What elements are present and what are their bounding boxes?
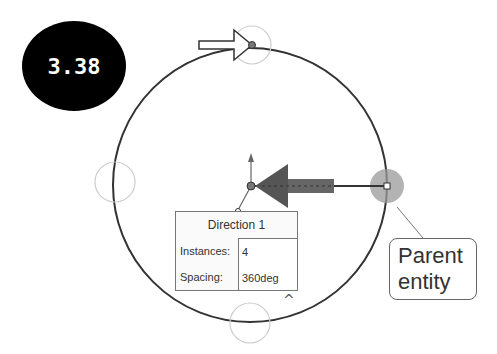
parent-entity-endpoint[interactable] <box>384 183 390 189</box>
figure-number-badge: 3.38 <box>22 21 126 111</box>
direction-dialog-title: Direction 1 <box>176 212 297 238</box>
parent-entity-callout: Parent entity <box>389 238 477 300</box>
direction-dialog: Direction 1 Instances: Spacing: 4 360deg <box>175 211 298 291</box>
center-point[interactable] <box>247 182 255 190</box>
callout-line-2: entity <box>398 269 476 295</box>
callout-leader <box>397 207 423 238</box>
value-column: 4 360deg <box>238 238 297 290</box>
spacing-label: Spacing: <box>180 264 223 290</box>
axis-up-arrow-icon <box>248 153 254 162</box>
direction-arrow-head-icon[interactable] <box>255 164 288 208</box>
collapse-chevron-icon[interactable]: ^ <box>283 292 295 308</box>
instances-field[interactable]: 4 <box>242 239 297 265</box>
top-instance-point <box>249 42 256 49</box>
spacing-field[interactable]: 360deg <box>242 265 297 291</box>
instances-label: Instances: <box>180 238 230 264</box>
figure-number: 3.38 <box>48 54 101 79</box>
callout-line-1: Parent <box>398 243 476 269</box>
